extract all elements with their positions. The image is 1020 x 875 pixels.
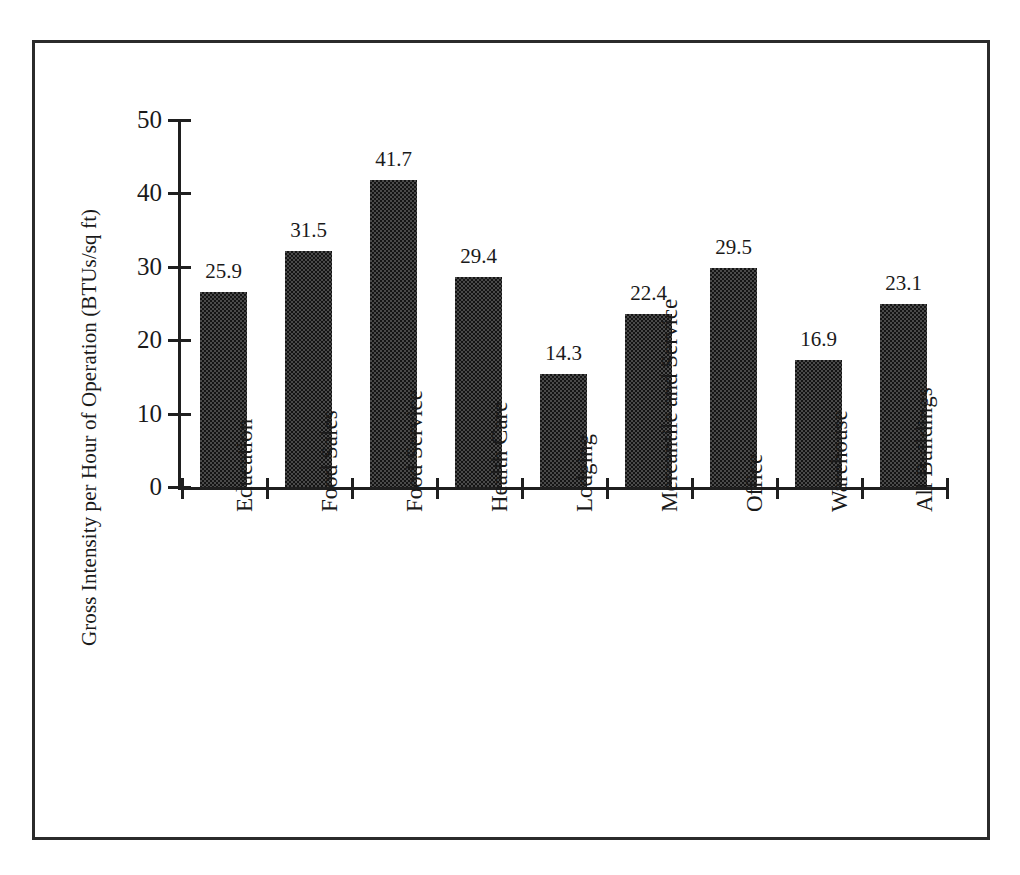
- x-axis-tick: [606, 478, 609, 499]
- bar-value-label: 25.9: [179, 261, 269, 282]
- x-axis-tick: [691, 478, 694, 499]
- bar-value-label: 14.3: [519, 343, 609, 364]
- x-axis-category-label: Lodging: [573, 434, 596, 512]
- bar-value-label: 29.5: [689, 237, 779, 258]
- x-axis-category-label: Warehouse: [828, 410, 851, 512]
- y-axis-tick-label: 50: [118, 107, 162, 132]
- y-axis-tick: [168, 339, 191, 342]
- x-axis-category-label: Education: [233, 419, 256, 512]
- y-axis-tick: [168, 119, 191, 122]
- x-axis-tick: [351, 478, 354, 499]
- x-axis-category-label: All Buildings: [913, 387, 936, 512]
- bar-value-label: 41.7: [349, 149, 439, 170]
- y-axis-tick-label: 20: [118, 327, 162, 352]
- y-axis-tick: [168, 192, 191, 195]
- y-axis-tick-label: 40: [118, 180, 162, 205]
- bar-value-label: 29.4: [434, 246, 524, 267]
- x-axis-category-label: Office: [743, 454, 766, 512]
- x-axis-category-label: Health Care: [488, 402, 511, 512]
- chart-canvas: Gross Intensity per Hour of Operation (B…: [0, 0, 1020, 875]
- x-axis-tick: [946, 478, 949, 499]
- y-axis-title: Gross Intensity per Hour of Operation (B…: [76, 46, 102, 646]
- bar-value-label: 31.5: [264, 220, 354, 241]
- x-axis-tick: [181, 478, 184, 499]
- x-axis-category-label: Food Sales: [318, 410, 341, 512]
- bar-value-label: 23.1: [859, 273, 949, 294]
- x-axis-tick: [521, 478, 524, 499]
- y-axis-line: [178, 119, 181, 490]
- y-axis-tick: [168, 486, 191, 489]
- y-axis-tick-label: 30: [118, 254, 162, 279]
- y-axis-tick-label: 0: [118, 474, 162, 499]
- y-axis-tick: [168, 413, 191, 416]
- bar-value-label: 16.9: [774, 329, 864, 350]
- x-axis-category-label: Food Service: [403, 390, 426, 512]
- x-axis-tick: [436, 478, 439, 499]
- x-axis-category-label: Mercantile and Service: [658, 299, 681, 512]
- y-axis-tick-label: 10: [118, 401, 162, 426]
- x-axis-tick: [861, 478, 864, 499]
- x-axis-tick: [776, 478, 779, 499]
- x-axis-tick: [266, 478, 269, 499]
